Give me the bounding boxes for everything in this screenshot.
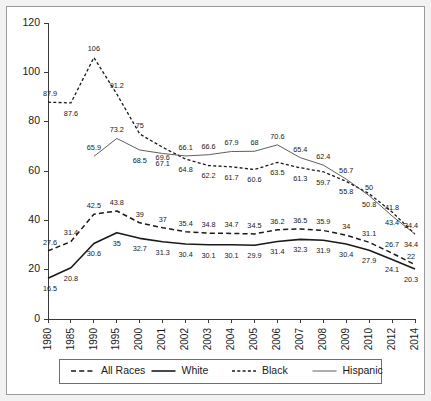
data-label: 20.8 (64, 274, 78, 283)
y-tick-label: 60 (28, 164, 40, 176)
legend-label-hispanic: Hispanic (343, 364, 383, 376)
x-tick-label: 2009 (340, 328, 351, 351)
data-label: 55.8 (339, 187, 353, 196)
data-label: 27.9 (362, 256, 376, 265)
data-label: 91.2 (110, 81, 124, 90)
data-label: 65.4 (293, 145, 307, 154)
data-label: 61.3 (293, 174, 307, 183)
x-tick-label: 2006 (271, 328, 282, 351)
data-label: 42.5 (87, 201, 101, 210)
data-label: 30.4 (339, 250, 353, 259)
data-label: 32.7 (133, 244, 147, 253)
data-label: 30.1 (201, 251, 215, 260)
figure-container: 020406080100120 198019851990199520002001… (0, 0, 431, 401)
data-label: 31.4 (270, 247, 284, 256)
data-label: 20.3 (404, 275, 418, 284)
data-label: 31.3 (156, 248, 170, 257)
data-label: 39 (136, 210, 144, 219)
y-tick-label: 0 (34, 312, 40, 324)
x-tick-label: 1995 (110, 328, 121, 351)
data-label: 31.4 (64, 228, 78, 237)
x-tick-label: 2000 (133, 328, 144, 351)
x-tick-label: 1985 (65, 328, 76, 351)
data-label: 66.1 (179, 143, 193, 152)
data-label: 62.2 (201, 171, 215, 180)
y-tick-label: 40 (28, 213, 40, 225)
x-tick-label: 2004 (225, 328, 236, 351)
data-label: 62.4 (316, 152, 330, 161)
data-label: 68.5 (133, 156, 147, 165)
data-label: 35 (113, 239, 121, 248)
data-label: 35.4 (179, 219, 193, 228)
data-label: 61.7 (224, 173, 238, 182)
data-label: 75 (136, 121, 144, 130)
data-label: 30.1 (224, 251, 238, 260)
data-label: 87.6 (64, 109, 78, 118)
x-tick-label: 2007 (294, 328, 305, 351)
data-label: 67.1 (156, 159, 170, 168)
data-label: 67.9 (224, 138, 238, 147)
data-label: 34.8 (201, 220, 215, 229)
legend-label-black: Black (262, 364, 288, 376)
data-label: 87.9 (43, 89, 57, 98)
data-label: 64.8 (179, 165, 193, 174)
legend-label-white: White (182, 364, 209, 376)
data-label: 16.5 (43, 284, 57, 293)
data-label: 66.6 (201, 142, 215, 151)
data-label: 56.7 (339, 166, 353, 175)
y-tick-label: 20 (28, 262, 40, 274)
x-tick-label: 2002 (179, 328, 190, 351)
data-label: 34.4 (404, 240, 418, 249)
x-tick-label: 2010 (363, 328, 374, 351)
data-label: 65.9 (87, 143, 101, 152)
x-tick-label: 2008 (317, 328, 328, 351)
x-tick-label: 2001 (156, 328, 167, 351)
y-axis: 020406080100120 (22, 16, 48, 324)
data-label: 32.3 (293, 245, 307, 254)
data-label: 34.4 (404, 221, 418, 230)
series-lines (48, 58, 415, 279)
data-label: 37 (159, 215, 167, 224)
data-label: 36.2 (270, 217, 284, 226)
data-label: 50.8 (362, 200, 376, 209)
data-label: 106 (88, 44, 100, 53)
data-label: 36.5 (293, 216, 307, 225)
x-tick-label: 2014 (409, 328, 420, 351)
data-label: 31.9 (316, 246, 330, 255)
y-tick-label: 120 (22, 16, 40, 28)
data-label: 34 (342, 222, 350, 231)
data-label: 68 (250, 138, 258, 147)
data-label: 30.4 (179, 250, 193, 259)
data-label: 73.2 (110, 125, 124, 134)
data-label: 31.1 (362, 229, 376, 238)
data-label: 34.5 (247, 221, 261, 230)
data-labels: 27.631.442.543.8393735.434.834.734.536.2… (43, 44, 418, 293)
data-label: 59.7 (316, 178, 330, 187)
y-tick-label: 80 (28, 114, 40, 126)
data-label: 35.9 (316, 217, 330, 226)
data-label: 41.8 (385, 203, 399, 212)
data-label: 26.7 (385, 240, 399, 249)
data-label: 60.6 (247, 175, 261, 184)
legend-label-all-races: All Races (101, 364, 145, 376)
x-tick-label: 1980 (42, 328, 53, 351)
chart-frame: 020406080100120 198019851990199520002001… (6, 6, 425, 395)
data-label: 63.5 (270, 168, 284, 177)
data-label: 24.1 (385, 265, 399, 274)
data-label: 29.9 (247, 251, 261, 260)
y-tick-label: 100 (22, 65, 40, 77)
x-tick-label: 1990 (88, 328, 99, 351)
data-label: 50 (365, 183, 373, 192)
x-tick-label: 2005 (248, 328, 259, 351)
x-axis: 1980198519901995200020012002200320042005… (42, 319, 420, 350)
data-label: 30.6 (87, 249, 101, 258)
data-label: 70.6 (270, 132, 284, 141)
data-label: 34.7 (224, 220, 238, 229)
x-tick-label: 2012 (386, 328, 397, 351)
data-label: 43.4 (385, 218, 399, 227)
data-label: 43.8 (110, 198, 124, 207)
x-tick-label: 2003 (202, 328, 213, 351)
chart-legend: All RacesWhiteBlackHispanic (59, 359, 383, 383)
line-chart: 020406080100120 198019851990199520002001… (7, 7, 424, 394)
data-label: 27.6 (43, 238, 57, 247)
